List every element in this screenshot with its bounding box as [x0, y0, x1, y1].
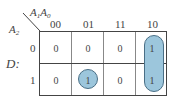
cell-r0-c0: 0 [40, 32, 72, 64]
cell-r1-c0: 0 [40, 64, 72, 96]
row-header-0: 0 [30, 43, 36, 54]
col-header-10: 10 [147, 19, 158, 30]
output-label: D: [6, 58, 20, 69]
cell-r1-c2: 0 [104, 64, 136, 96]
cell-r0-c3: 1 [136, 32, 168, 64]
column-variable-label: A1A0 [30, 7, 50, 22]
col-header-11: 11 [115, 19, 126, 30]
row-header-1: 1 [30, 75, 36, 86]
row-variable-label: A2 [9, 24, 19, 39]
cell-r1-c3: 1 [136, 64, 168, 96]
karnaugh-map-grid: 0 0 0 1 0 1 0 1 [39, 31, 167, 96]
col-header-01: 01 [83, 19, 94, 30]
col-header-00: 00 [50, 19, 61, 30]
cell-r0-c2: 0 [104, 32, 136, 64]
cell-r1-c1: 1 [72, 64, 104, 96]
cell-r0-c1: 0 [72, 32, 104, 64]
